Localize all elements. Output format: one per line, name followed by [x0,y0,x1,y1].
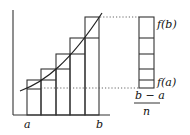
fraction-denominator: n [143,105,150,118]
rectangle-4 [70,38,85,115]
label-f-of-b: f(b) [156,18,177,31]
column-outline [139,17,154,88]
riemann-sum-diagram: a b f(b) f(a) b − a n [0,0,190,135]
label-f-of-a: f(a) [156,76,176,89]
label-a: a [24,118,31,131]
label-b: b [96,118,103,131]
function-curve [20,13,102,91]
rectangle-5 [85,17,99,115]
fraction-numerator: b − a [135,89,165,102]
riemann-rectangles [27,17,99,115]
difference-column [139,17,154,88]
